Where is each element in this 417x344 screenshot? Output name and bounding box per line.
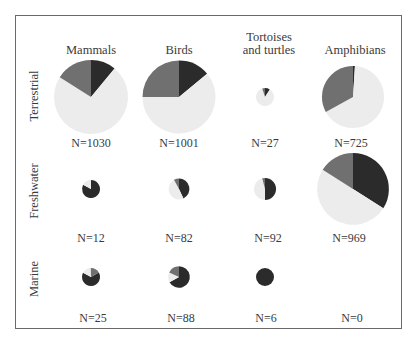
n-label-freshwater-mammals: N=12 [77, 231, 104, 245]
pie-freshwater-amphibians [317, 153, 389, 225]
n-label-terrestrial-birds: N=1001 [159, 136, 198, 150]
pie-slice-mid [143, 61, 179, 97]
row-label-marine: Marine [27, 261, 41, 298]
column-label-tortoises-line1: Tortoises [246, 30, 292, 44]
pie-marine-mammals [82, 268, 100, 286]
n-label-freshwater-amphibians: N=969 [332, 231, 365, 245]
column-label-amphibians: Amphibians [324, 43, 385, 57]
n-label-freshwater-birds: N=82 [165, 231, 192, 245]
n-label-marine-tortoises: N=6 [255, 311, 276, 325]
n-label-terrestrial-mammals: N=1030 [71, 136, 110, 150]
pie-freshwater-tortoises-and-turtles [254, 178, 276, 200]
n-label-terrestrial-tortoises: N=27 [251, 136, 278, 150]
pie-freshwater-birds [169, 179, 190, 200]
pie-freshwater-mammals [82, 180, 100, 198]
pie-terrestrial-tortoises-and-turtles [256, 88, 274, 106]
pie-terrestrial-birds [143, 61, 216, 134]
pie-marine-birds [168, 266, 190, 288]
pie-slice-dark [256, 268, 274, 286]
n-label-marine-mammals: N=25 [79, 311, 106, 325]
column-label-tortoises-line2: and turtles [243, 43, 296, 57]
column-label-mammals: Mammals [66, 43, 116, 57]
n-label-marine-birds: N=88 [167, 311, 194, 325]
n-label-freshwater-tortoises: N=92 [254, 231, 281, 245]
pie-slice-dark [265, 178, 276, 200]
pie-marine-tortoises-and-turtles [256, 268, 274, 286]
row-label-terrestrial: Terrestrial [27, 70, 41, 122]
row-label-freshwater: Freshwater [27, 162, 41, 218]
n-label-marine-amphibians: N=0 [341, 311, 362, 325]
n-label-terrestrial-amphibians: N=725 [334, 136, 367, 150]
pie-grid-chart: Mammals Birds Tortoises and turtles Amph… [0, 0, 417, 344]
pie-group [54, 60, 389, 288]
pie-terrestrial-amphibians [322, 66, 384, 128]
column-label-birds: Birds [165, 43, 192, 57]
pie-terrestrial-mammals [54, 60, 128, 134]
